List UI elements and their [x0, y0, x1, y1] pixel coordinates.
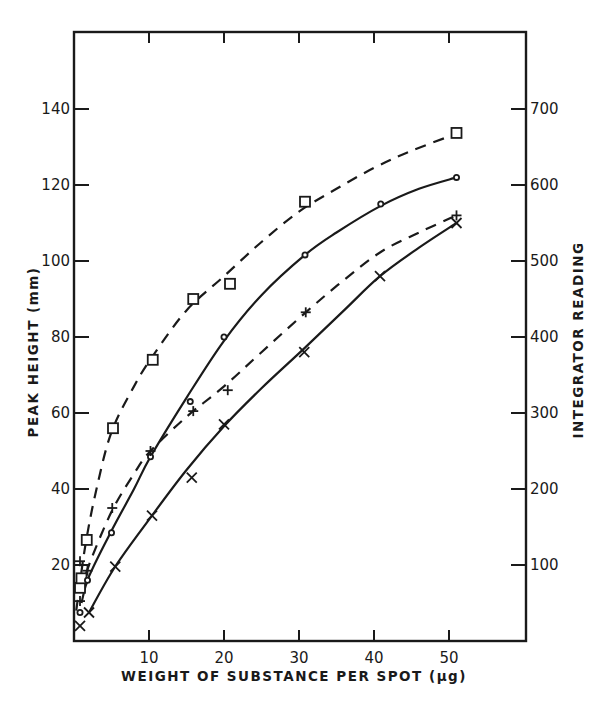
data-point-square [225, 279, 235, 289]
x-tick-label: 10 [139, 649, 158, 667]
y-tick-label: 20 [51, 556, 70, 574]
data-point-circle [302, 252, 307, 257]
data-point-circle [221, 334, 226, 339]
data-point-square [300, 197, 310, 207]
x-axis-label: WEIGHT OF SUBSTANCE PER SPOT (µg) [121, 668, 467, 684]
data-point-square [108, 423, 118, 433]
y-tick-label: 40 [51, 480, 70, 498]
chart-figure: 1020304050 20406080100120140 10020030040… [0, 0, 611, 717]
x-tick-label: 40 [364, 649, 383, 667]
x-tick-label: 30 [289, 649, 308, 667]
y2-tick-label: 300 [530, 404, 559, 422]
data-point-circle [188, 399, 193, 404]
data-point-square [75, 583, 85, 593]
data-point-square [188, 294, 198, 304]
y-tick-label: 100 [41, 252, 70, 270]
data-point-circle [85, 578, 90, 583]
data-point-circle [109, 530, 114, 535]
y2-tick-label: 600 [530, 176, 559, 194]
y-tick-label: 120 [41, 176, 70, 194]
x-tick-label: 50 [439, 649, 458, 667]
y2-tick-label: 200 [530, 480, 559, 498]
data-point-circle [77, 610, 82, 615]
data-point-square [148, 355, 158, 365]
y2-tick-label: 500 [530, 252, 559, 270]
y-tick-label: 60 [51, 404, 70, 422]
data-point-circle [378, 201, 383, 206]
y-axis-label: PEAK HEIGHT (mm) [25, 266, 41, 437]
y2-axis-label: INTEGRATOR READING [570, 241, 586, 438]
x-tick-label: 20 [214, 649, 233, 667]
y2-tick-label: 100 [530, 556, 559, 574]
data-point-square [452, 128, 462, 138]
y-tick-label: 80 [51, 328, 70, 346]
y2-tick-label: 400 [530, 328, 559, 346]
data-point-square [82, 535, 92, 545]
y-tick-label: 140 [41, 100, 70, 118]
y2-tick-label: 700 [530, 100, 559, 118]
data-point-circle [454, 175, 459, 180]
